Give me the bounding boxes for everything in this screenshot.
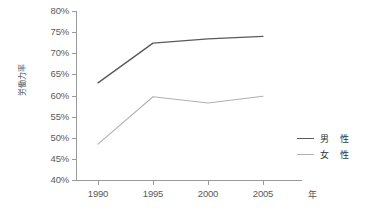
chart-figure: 80%75%70%65%60%55%50%45%40% 199019952000… <box>0 0 377 215</box>
plot-area <box>76 11 285 180</box>
y-tick-label: 70% <box>51 47 69 58</box>
x-axis-title: 年 <box>308 188 317 201</box>
x-tick <box>263 181 264 185</box>
legend: 男 性女 性 <box>297 130 351 162</box>
x-tick-label: 1995 <box>143 188 163 199</box>
legend-label: 男 性 <box>320 132 351 145</box>
x-tick <box>98 181 99 185</box>
y-tick-label: 45% <box>51 153 69 164</box>
y-tick-label: 75% <box>51 26 69 37</box>
x-tick-label: 1990 <box>88 188 108 199</box>
legend-line-icon <box>297 138 314 139</box>
legend-item: 女 性 <box>297 146 351 162</box>
y-tick-label: 60% <box>51 90 69 101</box>
series-line <box>98 96 263 144</box>
x-tick-label: 2000 <box>198 188 218 199</box>
y-tick-label: 55% <box>51 111 69 122</box>
y-tick-label: 40% <box>51 174 69 185</box>
y-tick-label: 50% <box>51 132 69 143</box>
legend-line-icon <box>297 154 314 155</box>
y-tick <box>72 180 76 181</box>
legend-label: 女 性 <box>320 148 351 161</box>
y-tick-label: 80% <box>51 5 69 16</box>
x-tick <box>208 181 209 185</box>
y-tick-label: 65% <box>51 68 69 79</box>
x-tick-label: 2005 <box>253 188 273 199</box>
x-axis-line <box>76 180 302 181</box>
y-axis-title: 労働力率 <box>16 50 27 110</box>
x-tick <box>153 181 154 185</box>
series-lines <box>76 11 285 180</box>
series-line <box>98 36 263 82</box>
legend-item: 男 性 <box>297 130 351 146</box>
